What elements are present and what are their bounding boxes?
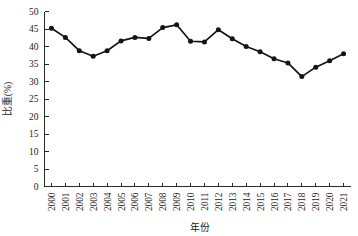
x-tick-label: 2019 <box>311 192 321 211</box>
x-tick-label: 2010 <box>186 192 196 211</box>
y-tick-label: 5 <box>34 164 39 174</box>
data-point-marker <box>105 48 110 53</box>
x-tick-label: 2009 <box>172 192 182 211</box>
data-point-marker <box>174 22 179 27</box>
x-tick-label: 2005 <box>117 192 127 211</box>
x-tick-label: 2018 <box>297 192 307 211</box>
data-point-marker <box>272 56 277 61</box>
y-tick-label: 30 <box>29 77 39 87</box>
data-point-marker <box>230 36 235 41</box>
y-tick-label: 25 <box>29 94 39 104</box>
y-tick-label: 0 <box>34 182 39 192</box>
data-point-marker <box>49 26 54 31</box>
y-axis-title: 比重(%) <box>1 82 14 117</box>
x-tick-label: 2000 <box>47 192 57 211</box>
x-tick-label: 2015 <box>256 192 266 211</box>
y-tick-label: 35 <box>29 59 39 69</box>
data-point-marker <box>299 74 304 79</box>
y-tick-label: 20 <box>29 112 39 122</box>
x-tick-label: 2008 <box>158 192 168 211</box>
x-tick-label: 2012 <box>214 192 224 211</box>
data-point-marker <box>313 65 318 70</box>
y-tick-label: 45 <box>29 24 39 34</box>
data-point-marker <box>77 48 82 53</box>
x-tick-label: 2014 <box>242 192 252 211</box>
data-point-marker <box>341 51 346 56</box>
chart-container: 2000200120022003200420052006200720082009… <box>0 0 358 236</box>
x-tick-labels: 2000200120022003200420052006200720082009… <box>47 192 349 211</box>
x-tick-label: 2003 <box>89 192 99 211</box>
x-tick-label: 2001 <box>61 192 71 211</box>
data-point-marker <box>132 35 137 40</box>
y-tick-label: 15 <box>29 129 39 139</box>
data-point-marker <box>327 58 332 63</box>
data-point-marker <box>216 27 221 32</box>
y-axis <box>45 12 49 187</box>
x-tick-label: 2013 <box>228 192 238 211</box>
data-point-marker <box>202 39 207 44</box>
data-point-marker <box>258 49 263 54</box>
x-tick-label: 2004 <box>103 192 113 211</box>
x-tick-label: 2002 <box>75 192 85 211</box>
y-tick-label: 50 <box>29 7 39 17</box>
x-tick-label: 2021 <box>339 192 349 211</box>
x-axis <box>45 183 351 187</box>
y-tick-label: 40 <box>29 42 39 52</box>
data-point-marker <box>244 44 249 49</box>
x-tick-label: 2017 <box>283 192 293 211</box>
data-point-marker <box>285 60 290 65</box>
x-tick-label: 2006 <box>130 192 140 211</box>
data-point-marker <box>146 36 151 41</box>
data-series-line <box>49 22 346 79</box>
data-point-marker <box>160 25 165 30</box>
x-tick-label: 2007 <box>144 192 154 211</box>
data-point-marker <box>188 39 193 44</box>
data-point-marker <box>119 38 124 43</box>
data-point-marker <box>91 54 96 59</box>
series-polyline <box>51 25 343 77</box>
x-tick-label: 2020 <box>325 192 335 211</box>
x-axis-title: 年份 <box>190 221 210 233</box>
data-point-marker <box>63 35 68 40</box>
y-tick-labels: 05101520253035404550 <box>29 7 39 192</box>
y-tick-label: 10 <box>29 147 39 157</box>
line-chart-plot: 2000200120022003200420052006200720082009… <box>0 0 358 236</box>
x-tick-label: 2011 <box>200 192 210 211</box>
x-tick-label: 2016 <box>270 192 280 211</box>
